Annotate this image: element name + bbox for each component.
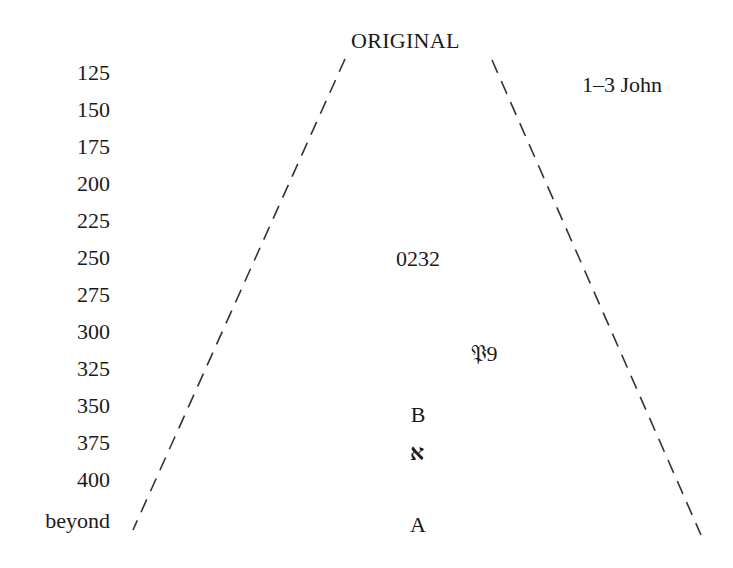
axis-label: 175	[0, 134, 110, 160]
manuscript-0232: 0232	[396, 246, 440, 272]
original-title: ORIGINAL	[351, 28, 460, 54]
axis-label: beyond	[0, 508, 110, 534]
axis-label: 325	[0, 356, 110, 382]
book-label: 1–3 John	[582, 72, 662, 98]
axis-label: 275	[0, 282, 110, 308]
manuscript-a: A	[410, 512, 426, 538]
left-dashed-line	[133, 59, 345, 530]
axis-label: 225	[0, 208, 110, 234]
axis-label: 150	[0, 97, 110, 123]
axis-label: 400	[0, 467, 110, 493]
manuscript-b: B	[411, 402, 426, 428]
axis-label: 350	[0, 393, 110, 419]
axis-label: 200	[0, 171, 110, 197]
axis-label: 300	[0, 319, 110, 345]
manuscript-aleph: א	[410, 440, 424, 466]
axis-label: 375	[0, 430, 110, 456]
right-dashed-line	[492, 60, 701, 535]
axis-label: 250	[0, 245, 110, 271]
axis-label: 125	[0, 60, 110, 86]
manuscript-p9: 𝔓9	[471, 341, 498, 367]
